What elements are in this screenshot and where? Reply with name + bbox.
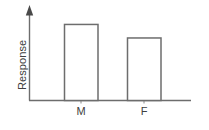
bar-m — [65, 24, 99, 100]
bar-f — [128, 38, 162, 101]
x-axis-label-m: M — [71, 106, 91, 117]
bar-series-response — [65, 24, 162, 100]
chart-canvas — [0, 0, 209, 130]
bar-chart-figure: Response M F — [0, 0, 209, 130]
x-axis-label-f: F — [134, 106, 154, 117]
x-axis — [29, 101, 191, 104]
y-axis-arrowhead — [26, 5, 33, 16]
y-axis-label: Response — [16, 40, 28, 90]
